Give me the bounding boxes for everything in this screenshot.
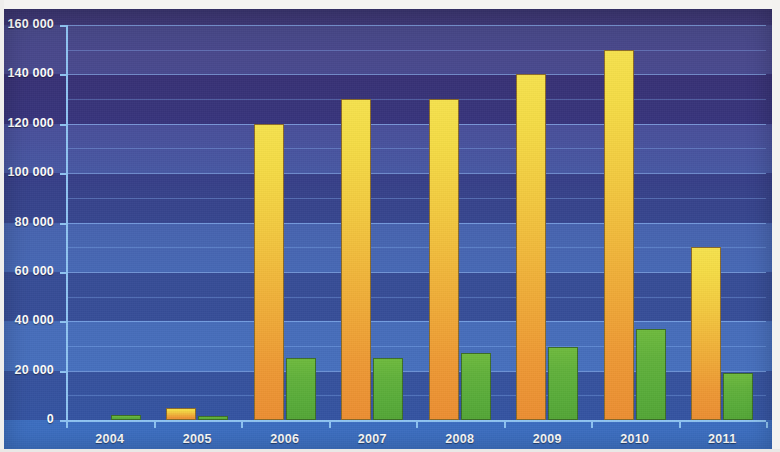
gridline-minor bbox=[66, 247, 766, 248]
y-axis-label: 20 000 bbox=[4, 363, 54, 377]
y-axis-tick bbox=[60, 272, 66, 274]
x-axis-label-2007: 2007 bbox=[329, 432, 417, 446]
gridline-major bbox=[66, 223, 766, 224]
y-axis-label: 160 000 bbox=[4, 17, 54, 31]
gridline-major bbox=[66, 25, 766, 26]
x-axis-label-2006: 2006 bbox=[241, 432, 329, 446]
bar-series-green-2009 bbox=[548, 347, 578, 420]
y-axis-label: 0 bbox=[4, 412, 54, 426]
x-axis-tick bbox=[154, 422, 156, 428]
x-axis-tick bbox=[241, 422, 243, 428]
scanned-page: 020 00040 00060 00080 000100 000120 0001… bbox=[0, 0, 780, 452]
y-axis-label: 140 000 bbox=[4, 66, 54, 80]
bar-series-orange-2008 bbox=[429, 99, 459, 420]
x-axis-label-2008: 2008 bbox=[416, 432, 504, 446]
x-axis-label-2011: 2011 bbox=[679, 432, 767, 446]
y-axis-tick bbox=[60, 321, 66, 323]
gridline-major bbox=[66, 124, 766, 125]
bar-series-green-2010 bbox=[636, 329, 666, 420]
y-axis-label: 80 000 bbox=[4, 215, 54, 229]
x-axis-label-2004: 2004 bbox=[66, 432, 154, 446]
gridline-major bbox=[66, 272, 766, 273]
y-axis-tick bbox=[60, 74, 66, 76]
y-axis-tick bbox=[60, 25, 66, 27]
gridline-major bbox=[66, 74, 766, 75]
scan-edge-top bbox=[0, 0, 780, 9]
bar-series-orange-2009 bbox=[516, 74, 546, 420]
scan-edge-right bbox=[772, 0, 780, 452]
bar-series-orange-2011 bbox=[691, 247, 721, 420]
gridline-minor bbox=[66, 99, 766, 100]
x-axis-tick bbox=[416, 422, 418, 428]
y-axis-tick bbox=[60, 371, 66, 373]
scan-edge-left bbox=[0, 0, 4, 452]
bar-series-orange-2005 bbox=[166, 408, 196, 420]
gridline-major bbox=[66, 173, 766, 174]
gridline-minor bbox=[66, 148, 766, 149]
bar-chart: 020 00040 00060 00080 000100 000120 0001… bbox=[4, 9, 772, 449]
y-axis-tick bbox=[60, 124, 66, 126]
gridline-minor bbox=[66, 198, 766, 199]
y-axis-label: 120 000 bbox=[4, 116, 54, 130]
gridline-minor bbox=[66, 297, 766, 298]
y-axis-label: 100 000 bbox=[4, 165, 54, 179]
x-axis-label-2009: 2009 bbox=[504, 432, 592, 446]
bar-series-green-2005 bbox=[198, 416, 228, 420]
x-axis-label-2005: 2005 bbox=[154, 432, 242, 446]
y-axis-label: 40 000 bbox=[4, 313, 54, 327]
y-axis-tick bbox=[60, 173, 66, 175]
x-axis-tick bbox=[329, 422, 331, 428]
x-axis-tick bbox=[679, 422, 681, 428]
gridline-major bbox=[66, 321, 766, 322]
x-axis-tick bbox=[591, 422, 593, 428]
bar-series-orange-2007 bbox=[341, 99, 371, 420]
x-axis-tick bbox=[504, 422, 506, 428]
gridline-minor bbox=[66, 50, 766, 51]
x-axis-tick bbox=[66, 422, 68, 428]
bar-series-green-2011 bbox=[723, 373, 753, 420]
bar-series-green-2004 bbox=[111, 415, 141, 420]
x-axis-label-2010: 2010 bbox=[591, 432, 679, 446]
bar-series-orange-2006 bbox=[254, 124, 284, 420]
y-axis-tick bbox=[60, 223, 66, 225]
y-axis bbox=[66, 25, 68, 422]
bar-series-green-2006 bbox=[286, 358, 316, 420]
y-axis-label: 60 000 bbox=[4, 264, 54, 278]
bar-series-orange-2010 bbox=[604, 50, 634, 420]
bar-series-green-2008 bbox=[461, 353, 491, 420]
bar-series-green-2007 bbox=[373, 358, 403, 420]
x-axis-tick bbox=[766, 422, 768, 428]
